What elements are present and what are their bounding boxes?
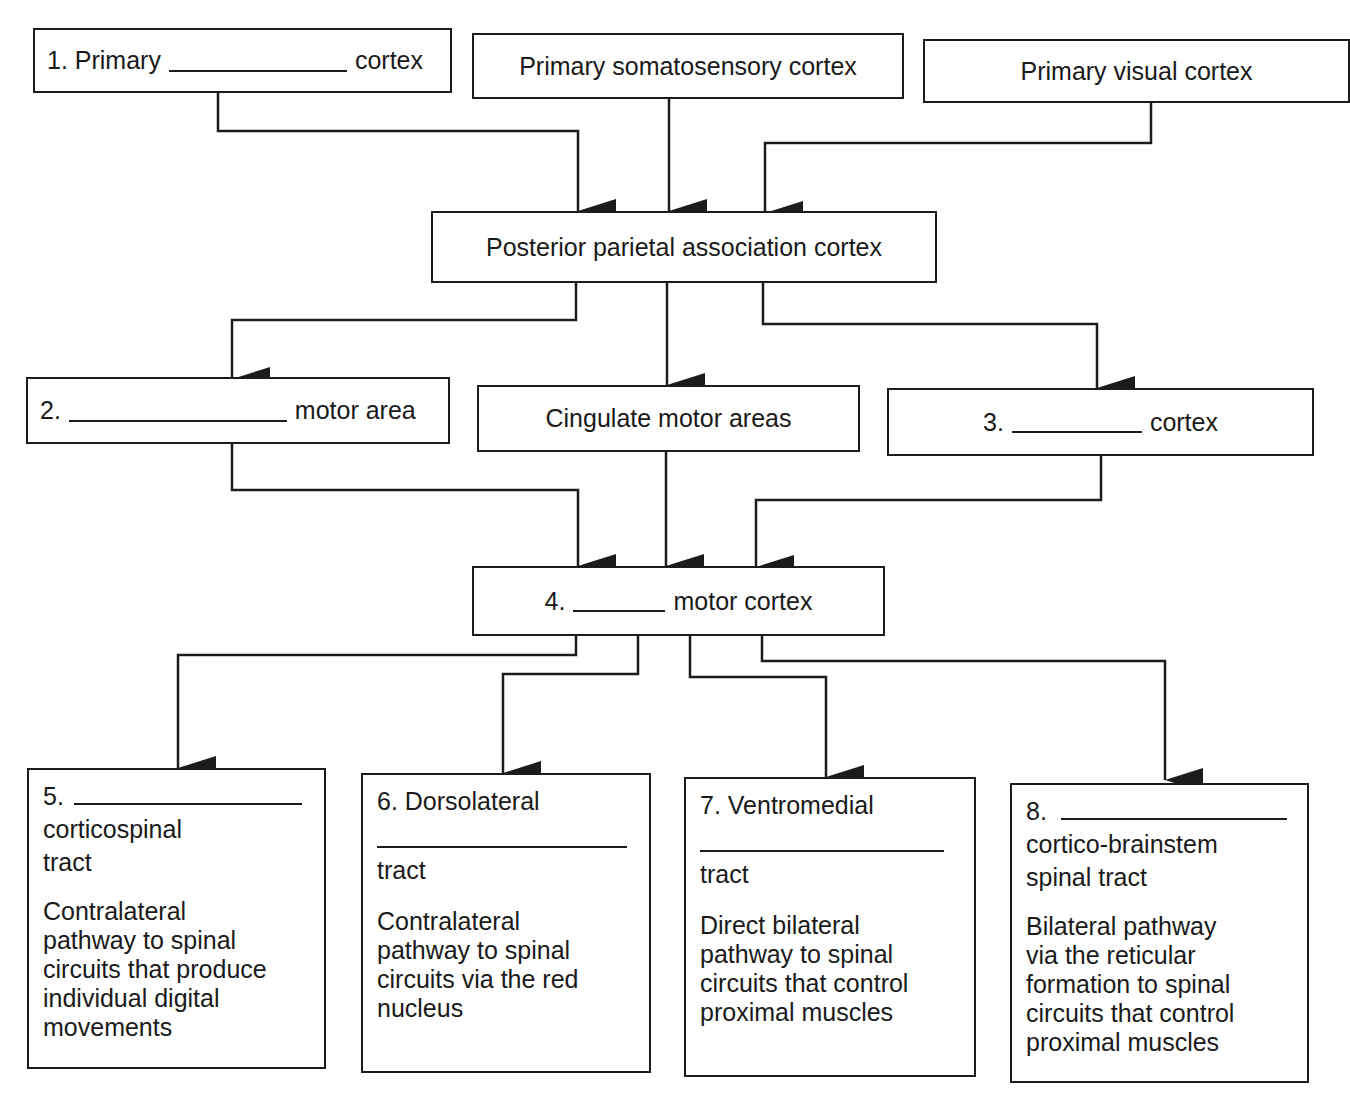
node-primary-blank-cortex: 1. Primary cortex bbox=[33, 28, 452, 93]
node-blank-cortex-3: 3. cortex bbox=[887, 388, 1314, 456]
fill-in-blank[interactable] bbox=[573, 590, 665, 612]
node-primary-visual-cortex: Primary visual cortex bbox=[923, 39, 1350, 103]
node-number: 8. bbox=[1026, 797, 1047, 825]
fill-in-blank[interactable] bbox=[69, 400, 287, 422]
arrow-motor-cortex-to-tract8 bbox=[762, 636, 1165, 780]
node-blank-motor-area: 2. motor area bbox=[26, 377, 450, 444]
node-suffix: cortex bbox=[1150, 408, 1218, 437]
arrow-primary-to-parietal bbox=[218, 92, 578, 211]
node-tract-8-cortico-brainstem-spinal: 8. cortico-brainstem spinal tract Bilate… bbox=[1010, 783, 1309, 1083]
description-line: pathway to spinal bbox=[43, 926, 312, 955]
node-tract-5-corticospinal: 5. corticospinal tract Contralateral pat… bbox=[27, 768, 326, 1069]
node-number: 3. bbox=[983, 408, 1004, 437]
fill-in-blank[interactable] bbox=[377, 846, 627, 848]
tract-number-line: 5. bbox=[43, 782, 312, 811]
arrow-parietal-to-cortex3 bbox=[763, 282, 1097, 388]
fill-in-blank[interactable] bbox=[1012, 411, 1142, 433]
description-line: proximal muscles bbox=[700, 998, 962, 1027]
description-line: individual digital bbox=[43, 984, 312, 1013]
arrow-parietal-to-motor-area bbox=[232, 280, 576, 379]
node-suffix: cortex bbox=[355, 46, 423, 75]
description-line: circuits via the red bbox=[377, 965, 637, 994]
description-line: formation to spinal bbox=[1026, 970, 1295, 999]
tract-description: Direct bilateral pathway to spinal circu… bbox=[700, 911, 962, 1027]
tract-title-line: tract bbox=[377, 856, 637, 885]
description-line: circuits that control bbox=[700, 969, 962, 998]
tract-title-word: Ventromedial bbox=[728, 791, 874, 819]
description-line: circuits that produce bbox=[43, 955, 312, 984]
description-line: circuits that control bbox=[1026, 999, 1295, 1028]
node-number: 2. bbox=[40, 396, 61, 425]
node-tract-6-dorsolateral: 6. Dorsolateral tract Contralateral path… bbox=[361, 773, 651, 1073]
node-primary-somatosensory-cortex: Primary somatosensory cortex bbox=[472, 33, 904, 99]
tract-title-line: corticospinal bbox=[43, 815, 312, 844]
description-line: Contralateral bbox=[43, 897, 312, 926]
description-line: pathway to spinal bbox=[377, 936, 637, 965]
node-suffix: motor cortex bbox=[673, 587, 812, 616]
tract-description: Contralateral pathway to spinal circuits… bbox=[43, 897, 312, 1042]
node-number: 6. bbox=[377, 787, 398, 815]
tract-number-line: 6. Dorsolateral bbox=[377, 787, 637, 816]
description-line: movements bbox=[43, 1013, 312, 1042]
tract-description: Contralateral pathway to spinal circuits… bbox=[377, 907, 637, 1023]
fill-in-blank[interactable] bbox=[74, 783, 302, 805]
node-label: Primary somatosensory cortex bbox=[519, 52, 857, 81]
fill-in-blank[interactable] bbox=[700, 850, 944, 852]
arrow-cortex3-to-motor-cortex bbox=[756, 456, 1101, 567]
node-label: Cingulate motor areas bbox=[546, 404, 792, 433]
fill-in-blank[interactable] bbox=[1061, 798, 1287, 820]
description-line: pathway to spinal bbox=[700, 940, 962, 969]
node-number: 4. bbox=[545, 587, 566, 616]
arrow-motor-cortex-to-tract5 bbox=[178, 635, 576, 768]
node-prefix: Primary bbox=[75, 46, 161, 75]
node-suffix: motor area bbox=[295, 396, 416, 425]
node-number: 1. bbox=[47, 46, 68, 75]
arrow-motor-cortex-to-tract7 bbox=[690, 636, 826, 777]
description-line: proximal muscles bbox=[1026, 1028, 1295, 1057]
node-number: 7. bbox=[700, 791, 721, 819]
description-line: via the reticular bbox=[1026, 941, 1295, 970]
node-posterior-parietal-association-cortex: Posterior parietal association cortex bbox=[431, 211, 937, 283]
arrow-visual-to-parietal bbox=[765, 101, 1151, 213]
tract-number-line: 8. bbox=[1026, 797, 1295, 826]
tract-title-line: tract bbox=[700, 860, 962, 889]
description-line: Bilateral pathway bbox=[1026, 912, 1295, 941]
node-label: Posterior parietal association cortex bbox=[486, 233, 882, 262]
node-cingulate-motor-areas: Cingulate motor areas bbox=[477, 385, 860, 452]
tract-title-line: cortico-brainstem bbox=[1026, 830, 1295, 859]
tract-title-line: spinal tract bbox=[1026, 863, 1295, 892]
description-line: nucleus bbox=[377, 994, 637, 1023]
description-line: Contralateral bbox=[377, 907, 637, 936]
arrow-motor-area-to-motor-cortex bbox=[232, 443, 578, 566]
node-number: 5. bbox=[43, 782, 64, 810]
tract-description: Bilateral pathway via the reticular form… bbox=[1026, 912, 1295, 1057]
tract-title-word: Dorsolateral bbox=[405, 787, 540, 815]
description-line: Direct bilateral bbox=[700, 911, 962, 940]
fill-in-blank[interactable] bbox=[169, 50, 347, 72]
node-blank-motor-cortex: 4. motor cortex bbox=[472, 566, 885, 636]
tract-number-line: 7. Ventromedial bbox=[700, 791, 962, 820]
node-tract-7-ventromedial: 7. Ventromedial tract Direct bilateral p… bbox=[684, 777, 976, 1077]
tract-title-line: tract bbox=[43, 848, 312, 877]
node-label: Primary visual cortex bbox=[1021, 57, 1253, 86]
